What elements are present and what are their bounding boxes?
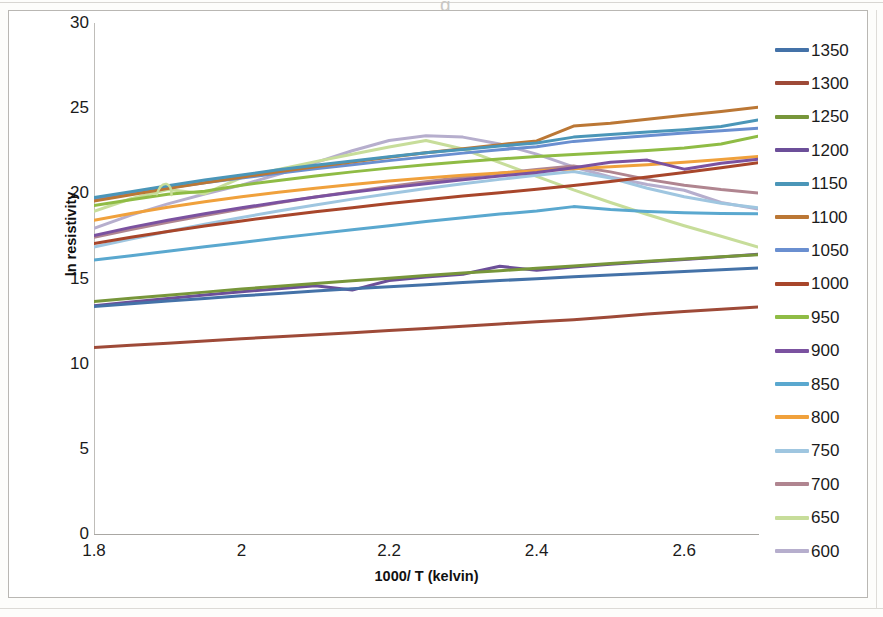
legend-item[interactable]: 800	[775, 408, 839, 426]
legend-color-swatch	[775, 449, 809, 453]
legend-color-swatch	[775, 81, 809, 85]
x-axis-tick-label: 2.4	[507, 541, 567, 561]
legend-item-label: 700	[811, 476, 839, 493]
legend-item[interactable]: 900	[775, 342, 839, 360]
y-axis-title: ln resistivity	[63, 154, 79, 314]
series-line	[94, 268, 758, 307]
legend-item-label: 950	[811, 309, 839, 326]
legend-color-swatch	[775, 148, 809, 152]
chart-frame: 051015202530 1.822.22.42.6 ln resistivit…	[8, 10, 868, 598]
y-axis-tick-label: 10	[49, 354, 89, 374]
legend-color-swatch	[775, 115, 809, 119]
legend-color-swatch	[775, 48, 809, 52]
legend-color-swatch	[775, 282, 809, 286]
x-axis-title: 1000/ T (kelvin)	[94, 568, 759, 584]
legend-item[interactable]: 600	[775, 542, 839, 560]
legend-item-label: 1250	[811, 108, 849, 125]
legend-item[interactable]: 1350	[775, 41, 849, 59]
y-axis-tick-label: 5	[49, 439, 89, 459]
legend-item-label: 850	[811, 376, 839, 393]
legend-color-swatch	[775, 516, 809, 520]
x-axis-tick-label: 2	[212, 541, 272, 561]
legend-color-swatch	[775, 182, 809, 186]
legend-color-swatch	[775, 349, 809, 353]
legend-color-swatch	[775, 549, 809, 553]
legend-item-label: 800	[811, 409, 839, 426]
x-axis-line	[94, 534, 759, 535]
y-axis-tick-label: 30	[49, 13, 89, 33]
legend-item[interactable]: 1300	[775, 74, 849, 92]
series-line	[94, 307, 758, 348]
legend-item-label: 1300	[811, 75, 849, 92]
legend-item-label: 1350	[811, 42, 849, 59]
legend-item[interactable]: 1100	[775, 208, 848, 226]
scan-edge-bottom	[0, 608, 883, 609]
legend-item[interactable]: 950	[775, 308, 839, 326]
x-axis-tick-label: 1.8	[64, 541, 124, 561]
legend-item-label: 1200	[811, 142, 849, 159]
legend-item[interactable]: 1050	[775, 241, 849, 259]
legend-item[interactable]: 1250	[775, 108, 849, 126]
legend-item-label: 1100	[811, 209, 848, 226]
legend-color-swatch	[775, 415, 809, 419]
legend-item-label: 750	[811, 442, 839, 459]
scan-edge-right	[876, 10, 877, 608]
legend-item-label: 650	[811, 509, 839, 526]
legend-color-swatch	[775, 315, 809, 319]
plot-area	[94, 23, 758, 534]
legend-color-swatch	[775, 248, 809, 252]
legend-item-label: 1050	[811, 242, 849, 259]
legend-item[interactable]: 1200	[775, 141, 849, 159]
legend-item[interactable]: 1000	[775, 275, 849, 293]
x-axis-tick-label: 2.6	[654, 541, 714, 561]
x-axis-tick-labels: 1.822.22.42.6	[94, 541, 759, 567]
legend-item[interactable]: 1150	[775, 175, 848, 193]
legend-color-swatch	[775, 215, 809, 219]
legend-item[interactable]: 650	[775, 509, 839, 527]
legend-item-label: 900	[811, 342, 839, 359]
series-line	[94, 136, 758, 205]
x-axis-tick-label: 2.2	[359, 541, 419, 561]
legend-item-label: 1150	[811, 175, 848, 192]
series-canvas	[94, 23, 758, 534]
legend-color-swatch	[775, 382, 809, 386]
legend-color-swatch	[775, 482, 809, 486]
legend-item-label: 1000	[811, 275, 849, 292]
y-axis-tick-label: 25	[49, 98, 89, 118]
legend-item[interactable]: 700	[775, 475, 839, 493]
legend-item[interactable]: 850	[775, 375, 839, 393]
legend-item[interactable]: 750	[775, 442, 839, 460]
legend-item-label: 600	[811, 543, 839, 560]
